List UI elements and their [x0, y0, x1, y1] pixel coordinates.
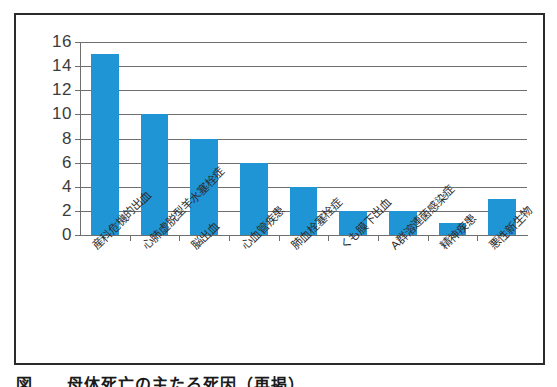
bar [240, 163, 268, 235]
figure-frame: 0246810121416 産科危機的出血心肺虚脱型羊水塞栓症脳出血心血管疾患肺… [14, 13, 545, 365]
x-axis-tick [428, 236, 429, 241]
x-axis-tick [130, 236, 131, 241]
y-axis-tick [75, 235, 81, 236]
x-axis-tick [328, 236, 329, 241]
bar [389, 211, 417, 235]
bar [290, 187, 318, 235]
x-axis-line [80, 235, 528, 236]
x-axis-tick [378, 236, 379, 241]
bar-series [80, 42, 527, 235]
bar [439, 223, 467, 235]
figure-caption: 図 母体死亡の主たる死因（再掲） [16, 371, 536, 387]
x-axis-tick [229, 236, 230, 241]
x-axis-tick [279, 236, 280, 241]
bar [488, 199, 516, 235]
x-axis-tick [477, 236, 478, 241]
bar [91, 54, 119, 235]
bar [190, 139, 218, 236]
x-axis-tick [179, 236, 180, 241]
bar [339, 211, 367, 235]
bar [141, 114, 169, 235]
